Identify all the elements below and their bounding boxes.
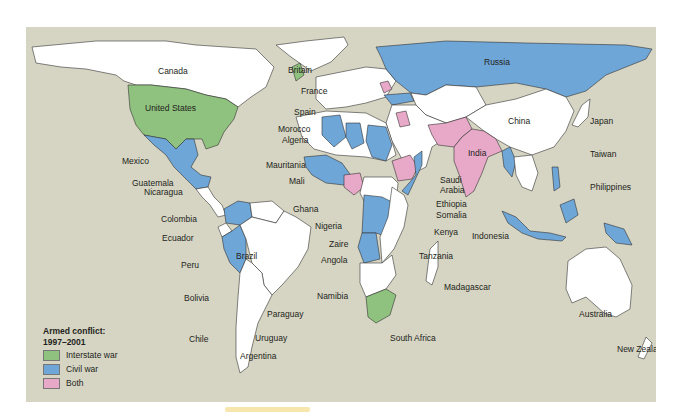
legend-item-both: Both	[43, 376, 118, 390]
label-brazil: Brazil	[236, 251, 257, 261]
label-arabia: Arabia	[440, 185, 465, 195]
label-uruguay: Uruguay	[255, 333, 287, 343]
civil-swatch	[43, 364, 60, 375]
label-mauritania: Mauritania	[266, 160, 306, 170]
label-zaire: Zaire	[329, 239, 348, 249]
label-spain: Spain	[294, 107, 316, 117]
label-algeria: Algeria	[282, 135, 308, 145]
myanmar	[502, 147, 516, 177]
label-argentina: Argentina	[240, 351, 276, 361]
label-ecuador: Ecuador	[162, 233, 194, 243]
label-taiwan: Taiwan	[590, 149, 616, 159]
label-chile: Chile	[189, 334, 208, 344]
legend-title-line1: Armed conflict:	[43, 326, 118, 337]
turkey-civil	[384, 93, 414, 105]
label-bolivia: Bolivia	[184, 293, 209, 303]
world-map: Canada United States Mexico Guatemala Ni…	[26, 27, 656, 402]
japan	[572, 99, 590, 127]
label-nicaragua: Nicaragua	[144, 187, 183, 197]
philippines	[552, 167, 560, 191]
new-guinea	[604, 223, 632, 245]
label-nigeria: Nigeria	[315, 221, 342, 231]
legend-label: Interstate war	[66, 350, 118, 360]
label-colombia: Colombia	[161, 214, 197, 224]
central-america	[196, 187, 226, 217]
legend-item-civil: Civil war	[43, 362, 118, 376]
australia	[566, 247, 632, 317]
label-united-states: United States	[145, 103, 196, 113]
label-canada: Canada	[158, 66, 188, 76]
interstate-swatch	[43, 350, 60, 361]
indonesia	[502, 211, 566, 241]
southeast-asia	[514, 155, 538, 191]
legend-title-line2: 1997–2001	[43, 337, 118, 348]
label-ghana: Ghana	[293, 204, 319, 214]
both-swatch	[43, 378, 60, 389]
legend-item-interstate: Interstate war	[43, 348, 118, 362]
label-saudi: Saudi	[440, 175, 462, 185]
legend-label: Both	[66, 378, 84, 388]
borneo	[560, 199, 578, 223]
russia	[376, 41, 652, 97]
label-japan: Japan	[590, 116, 613, 126]
map-legend: Armed conflict: 1997–2001 Interstate war…	[43, 326, 118, 390]
label-angola: Angola	[321, 255, 347, 265]
label-kenya: Kenya	[434, 227, 458, 237]
label-australia: Australia	[579, 309, 612, 319]
label-mexico: Mexico	[122, 156, 149, 166]
label-morocco: Morocco	[278, 124, 311, 134]
madagascar	[426, 241, 438, 285]
label-philippines: Philippines	[590, 182, 631, 192]
angola	[358, 233, 380, 263]
legend-label: Civil war	[66, 364, 98, 374]
label-paraguay: Paraguay	[267, 309, 303, 319]
label-madagascar: Madagascar	[444, 282, 491, 292]
label-mali: Mali	[289, 176, 305, 186]
label-south-africa: South Africa	[390, 333, 436, 343]
label-russia: Russia	[484, 57, 510, 67]
label-new-zealand: New Zealand	[617, 344, 656, 354]
label-indonesia: Indonesia	[472, 231, 509, 241]
label-france: France	[301, 86, 327, 96]
label-india: India	[468, 148, 486, 158]
label-somalia: Somalia	[436, 210, 467, 220]
highlight-bar	[225, 407, 310, 412]
label-ethiopia: Ethiopia	[436, 199, 467, 209]
label-china: China	[508, 116, 530, 126]
label-peru: Peru	[181, 260, 199, 270]
label-britain: Britain	[288, 65, 312, 75]
map-shapes	[26, 27, 656, 402]
label-namibia: Namibia	[317, 291, 348, 301]
label-tanzania: Tanzania	[419, 251, 453, 261]
